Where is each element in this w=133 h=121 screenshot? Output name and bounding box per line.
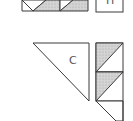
top-box: H	[96, 0, 123, 12]
triangle-c-label: C	[69, 54, 77, 67]
right-column	[96, 43, 123, 121]
right-plain-triangle	[96, 101, 123, 121]
patchwork-diagram: H C	[0, 0, 133, 121]
top-strip	[22, 0, 88, 11]
triangle-c: C	[33, 43, 89, 101]
top-box-label: H	[106, 0, 114, 7]
